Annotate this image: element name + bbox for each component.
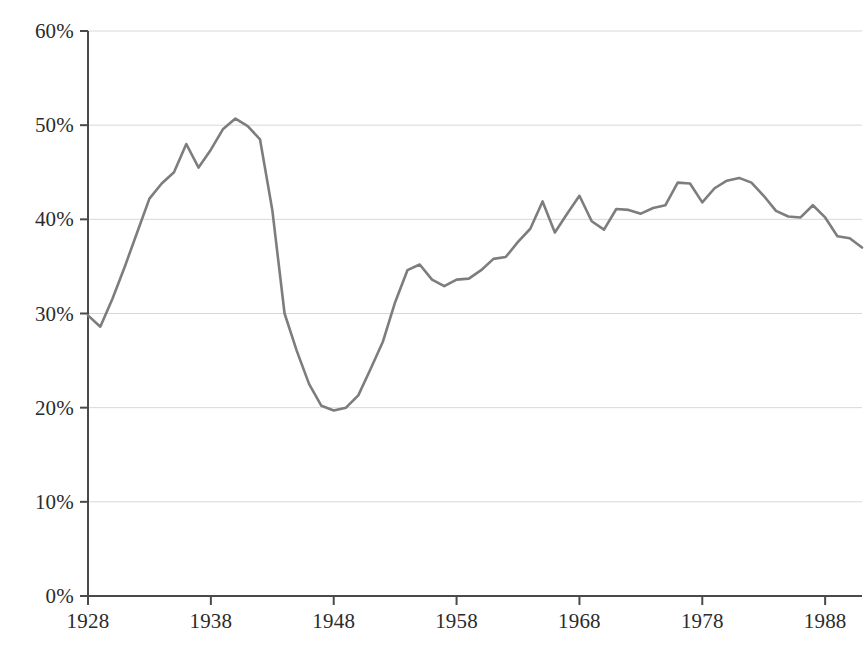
chart-container: 0%10%20%30%40%50%60% 1928193819481958196…: [0, 0, 868, 655]
x-axis-ticks: [88, 596, 825, 605]
y-axis-tick-label: 40%: [35, 207, 74, 232]
data-series-line: [88, 119, 862, 411]
x-axis-tick-label: 1958: [435, 609, 478, 634]
y-axis-tick-label: 60%: [35, 19, 74, 44]
y-axis-tick-label: 0%: [46, 584, 74, 609]
y-axis-tick-label: 20%: [35, 395, 74, 420]
y-axis-tick-label: 30%: [35, 301, 74, 326]
gridlines: [88, 31, 862, 502]
x-axis-tick-label: 1988: [804, 609, 847, 634]
line-chart-plot: [0, 0, 868, 655]
y-axis-tick-label: 10%: [35, 489, 74, 514]
y-axis-ticks: [80, 31, 88, 596]
y-axis-tick-label: 50%: [35, 113, 74, 138]
x-axis-tick-label: 1968: [558, 609, 601, 634]
x-axis-tick-label: 1978: [681, 609, 724, 634]
x-axis-tick-label: 1938: [189, 609, 232, 634]
x-axis-tick-label: 1928: [67, 609, 110, 634]
x-axis-tick-label: 1948: [312, 609, 355, 634]
